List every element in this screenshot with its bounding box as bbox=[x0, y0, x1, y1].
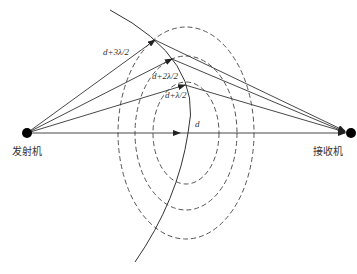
transmitter-dot bbox=[22, 128, 32, 138]
zone1-reflected-ray bbox=[185, 85, 345, 132]
zone1-path-label: d+λ/2 bbox=[165, 90, 186, 100]
transmitter-label: 发射机 bbox=[12, 143, 42, 158]
receiver-dot bbox=[346, 128, 356, 138]
zone3-path-label: d+3λ/2 bbox=[103, 47, 129, 57]
zone2-path-label: d+2λ/2 bbox=[152, 71, 178, 81]
receiver-label: 接收机 bbox=[313, 143, 343, 158]
fresnel-diagram bbox=[0, 0, 357, 274]
direct-path-label: d bbox=[195, 119, 200, 129]
